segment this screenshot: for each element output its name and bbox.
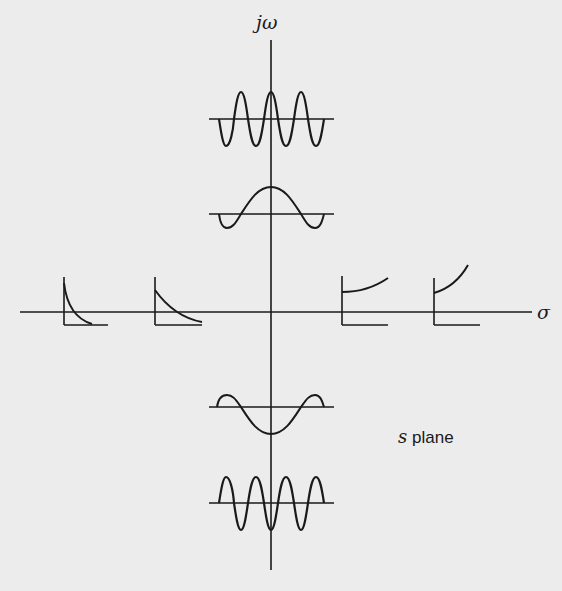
plane-label: s plane (398, 426, 454, 448)
plane-word: plane (412, 428, 454, 447)
inset-left-near (155, 277, 202, 325)
s-plane-diagram (0, 0, 562, 591)
inset-right-far (434, 265, 480, 325)
imaginary-axis-label: jω (256, 11, 277, 33)
real-axis-label: σ (537, 301, 550, 323)
inset-left-far (64, 277, 108, 325)
inset-right-near (342, 276, 388, 325)
plane-variable: s (398, 426, 407, 447)
